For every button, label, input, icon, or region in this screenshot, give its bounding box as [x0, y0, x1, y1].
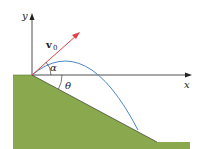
y-axis-label: y — [21, 10, 28, 21]
y-axis-arrowhead — [30, 13, 35, 20]
velocity-subscript: 0 — [53, 44, 57, 52]
x-axis-arrowhead — [185, 73, 192, 78]
velocity-label: v — [45, 39, 53, 50]
x-axis-label: x — [184, 79, 190, 90]
alpha-label: α — [50, 62, 57, 73]
projectile-on-slope-diagram: y x v 0 α θ — [0, 0, 207, 149]
theta-label: θ — [65, 80, 71, 91]
theta-arc — [59, 75, 63, 89]
